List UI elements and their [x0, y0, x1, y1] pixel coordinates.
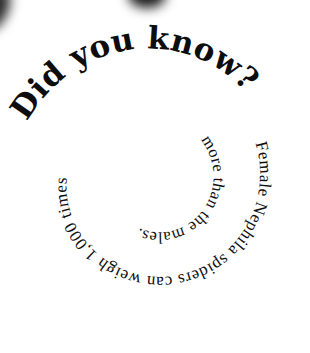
headline-text: Did you know? [3, 19, 267, 125]
fact-text-inner-ring: more than the males. [133, 132, 228, 248]
fact-text-inner: more than the males. [133, 132, 228, 248]
fact-text-middle: Female Nephila spiders can weigh 1,000 t… [51, 139, 275, 291]
fact-text-middle-ring: Female Nephila spiders can weigh 1,000 t… [51, 139, 275, 291]
spiral-text-graphic: Did you know? Female Nephila spiders can… [0, 0, 310, 353]
headline-did-you-know: Did you know? [3, 19, 267, 125]
